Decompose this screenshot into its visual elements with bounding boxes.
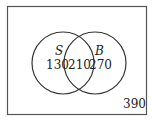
set-s-only-value: 130 [46,59,69,71]
set-b-label: B [95,45,104,57]
set-b-only-value: 270 [89,59,112,71]
outside-value: 390 [123,98,146,110]
intersection-value: 210 [68,59,91,71]
set-s-label: S [55,45,63,57]
